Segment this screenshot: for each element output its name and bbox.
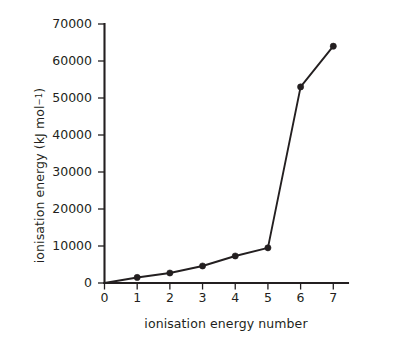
data-point-marker bbox=[199, 263, 205, 269]
data-point-marker bbox=[265, 245, 271, 251]
data-point-marker bbox=[298, 84, 304, 90]
series-line bbox=[105, 46, 334, 283]
axis-ticks bbox=[98, 24, 333, 290]
plot-area bbox=[0, 0, 400, 351]
data-point-marker bbox=[330, 43, 336, 49]
data-line bbox=[105, 46, 334, 283]
data-point-marker bbox=[134, 274, 140, 280]
data-point-marker bbox=[167, 270, 173, 276]
data-point-marker bbox=[232, 253, 238, 259]
ionisation-energy-chart: ionisation energy (kJ mol−1) ionisation … bbox=[0, 0, 400, 351]
axis-lines bbox=[105, 24, 349, 283]
